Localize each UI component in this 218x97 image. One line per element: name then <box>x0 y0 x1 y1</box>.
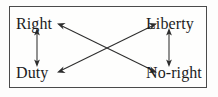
node-label-no-right: No-right <box>146 64 202 82</box>
diagram-figure: Right Liberty Duty No-right <box>0 0 218 97</box>
arrow-liberty-noright <box>166 28 172 67</box>
node-label-right: Right <box>16 15 52 33</box>
node-label-duty: Duty <box>16 64 48 82</box>
arrow-right-duty <box>34 28 40 67</box>
node-label-liberty: Liberty <box>146 15 194 33</box>
